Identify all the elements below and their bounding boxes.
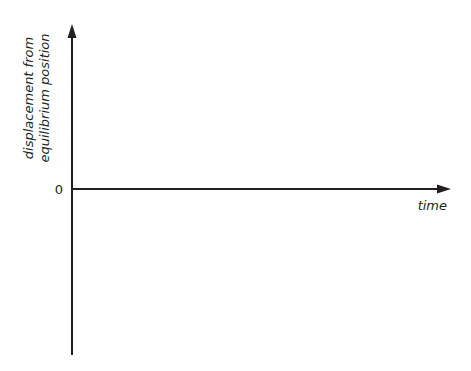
y-axis-arrowhead-icon (68, 24, 77, 38)
y-axis-label-line-1: displacement from (21, 37, 36, 159)
displacement-time-axes: displacement from equilibrium position 0… (0, 0, 471, 371)
y-origin-label: 0 (55, 182, 63, 197)
x-axis-label: time (418, 198, 447, 213)
y-axis-label-line-2: equilibrium position (37, 33, 52, 162)
x-axis-arrowhead-icon (437, 185, 451, 194)
y-axis-label: displacement from equilibrium position (21, 33, 52, 162)
